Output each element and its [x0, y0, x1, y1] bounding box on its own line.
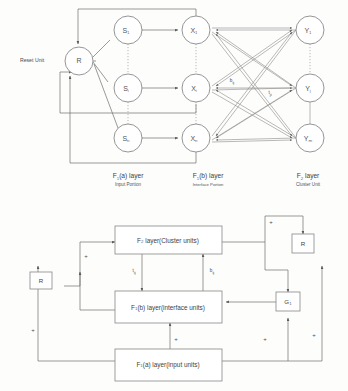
- art1-figure: Reset Unit R S1 Si Sn: [0, 0, 348, 391]
- wire-s1-reset: [92, 40, 110, 58]
- plus-sign-3: +: [31, 327, 35, 333]
- plus-sign-6: +: [312, 332, 316, 338]
- plus-sign-5: +: [263, 336, 267, 342]
- plus-sign-1: +: [84, 253, 88, 259]
- wire-f2-to-gain: [265, 242, 288, 292]
- wire-sn-reset: [94, 64, 118, 128]
- caption-f2-main: F2 layer: [297, 172, 320, 181]
- wire-f1a-to-reset-right: [288, 266, 322, 361]
- caption-f1b-main: F1(b) layer: [193, 172, 224, 181]
- input-layer-nodes: S1 Si Sn: [114, 16, 142, 152]
- caption-f2-sub: Cluster Unit: [296, 182, 321, 187]
- wire-xi-ym: [212, 92, 292, 138]
- wire-ym-xn: [216, 138, 296, 140]
- reset-unit-group: Reset Unit R: [20, 47, 93, 75]
- caption-f1b-sub: Interface Portion: [193, 182, 224, 187]
- weight-label-bij: bij: [210, 268, 214, 275]
- cluster-layer-nodes: Y1 Yj Ym: [296, 16, 324, 152]
- top-weight-labels: bij tji: [230, 78, 272, 97]
- wire-ym-x1: [216, 34, 296, 138]
- interface-layer-nodes: X1 Xi Xn: [182, 16, 210, 152]
- interface-cluster-crossbar: [212, 28, 296, 142]
- caption-f1a-main: F1(a) layer: [113, 172, 144, 181]
- box-reset-right-label: R: [301, 240, 306, 247]
- wire-f1a-to-gain: [222, 318, 288, 361]
- weight-label-tji: tji: [268, 90, 271, 97]
- bottom-weight-labels: tij bij: [132, 268, 214, 275]
- weight-label-tij: tij: [132, 268, 135, 275]
- wire-y1-xn: [216, 30, 296, 136]
- reset-node-label: R: [76, 57, 81, 64]
- art1-figure-svg: Reset Unit R S1 Si Sn: [0, 0, 348, 391]
- weight-label-bij: bij: [230, 78, 234, 85]
- input-to-interface-wires: [142, 30, 178, 138]
- wire-xn-ym: [212, 140, 292, 142]
- box-reset-left-label: R: [39, 277, 44, 284]
- bottom-diagram: F2 layer(Cluster units) F1(b) layer(inte…: [30, 216, 322, 381]
- top-captions: F1(a) layer Input Portion F1(b) layer In…: [113, 172, 321, 187]
- wire-y1-xi: [216, 30, 296, 86]
- input-to-reset-wires: [89, 40, 118, 128]
- top-diagram: Reset Unit R S1 Si Sn: [20, 9, 324, 187]
- plus-sign-4: +: [174, 336, 178, 342]
- bottom-boxes: F2 layer(Cluster units) F1(b) layer(inte…: [115, 226, 222, 381]
- wire-reset-left-to-f2: [64, 242, 115, 286]
- wire-yj-x1: [216, 32, 296, 88]
- reset-unit-label: Reset Unit: [20, 57, 45, 63]
- wire-si-reset: [93, 62, 108, 82]
- caption-f1a-sub: Input Portion: [115, 182, 141, 187]
- plus-sign-2: +: [269, 219, 273, 225]
